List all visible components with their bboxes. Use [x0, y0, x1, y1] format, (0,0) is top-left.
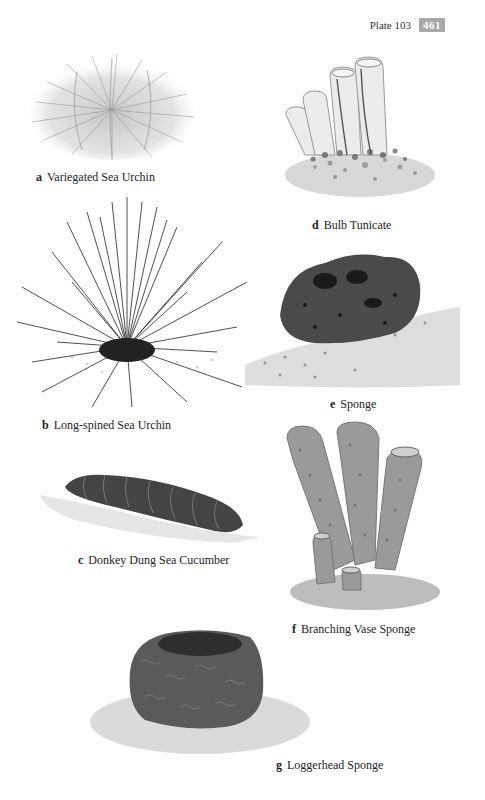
- caption-letter: e: [330, 397, 335, 411]
- long-spined-sea-urchin-illustration: [12, 192, 252, 412]
- page-header: Plate 103 461: [370, 18, 445, 32]
- variegated-sea-urchin-illustration: [22, 42, 202, 162]
- caption-bulb-tunicate: dBulb Tunicate: [312, 218, 391, 233]
- caption-letter: g: [276, 758, 282, 772]
- caption-name: Loggerhead Sponge: [287, 758, 383, 772]
- caption-letter: c: [78, 553, 83, 567]
- caption-name: Donkey Dung Sea Cucumber: [88, 553, 229, 567]
- caption-loggerhead-sponge: gLoggerhead Sponge: [276, 758, 383, 773]
- caption-name: Bulb Tunicate: [324, 218, 392, 232]
- caption-variegated-sea-urchin: aVariegated Sea Urchin: [36, 170, 155, 185]
- donkey-dung-sea-cucumber-illustration: [35, 465, 265, 545]
- caption-name: Long-spined Sea Urchin: [54, 418, 171, 432]
- caption-name: Sponge: [340, 397, 376, 411]
- caption-letter: b: [42, 418, 49, 432]
- caption-sponge: eSponge: [330, 397, 376, 412]
- bulb-tunicate-illustration: [275, 55, 445, 205]
- plate-label: Plate 103: [370, 19, 411, 31]
- branching-vase-sponge-illustration: [275, 420, 450, 620]
- caption-long-spined-sea-urchin: bLong-spined Sea Urchin: [42, 418, 171, 433]
- sponge-illustration: [245, 245, 460, 390]
- caption-donkey-dung-sea-cucumber: cDonkey Dung Sea Cucumber: [78, 553, 229, 568]
- caption-name: Variegated Sea Urchin: [47, 170, 155, 184]
- caption-letter: d: [312, 218, 319, 232]
- page-number-badge: 461: [419, 18, 445, 32]
- loggerhead-sponge-illustration: [85, 622, 315, 757]
- caption-letter: a: [36, 170, 42, 184]
- caption-name: Branching Vase Sponge: [301, 622, 415, 636]
